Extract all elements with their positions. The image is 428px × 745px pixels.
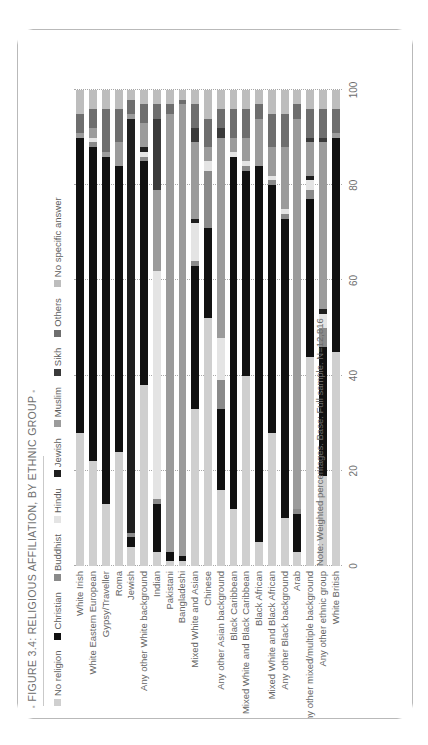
bar-segment[interactable] — [191, 223, 199, 261]
stacked-bar[interactable] — [89, 90, 97, 566]
bar-segment[interactable] — [217, 138, 225, 338]
stacked-bar[interactable] — [127, 90, 135, 566]
legend-item[interactable]: Buddhist — [52, 534, 63, 581]
bar-segment[interactable] — [153, 90, 161, 104]
bar-segment[interactable] — [76, 90, 84, 114]
bar-segment[interactable] — [191, 219, 199, 224]
bar-segment[interactable] — [179, 100, 187, 105]
bar-segment[interactable] — [306, 176, 314, 181]
legend-item[interactable]: Others — [52, 298, 63, 337]
bar-segment[interactable] — [115, 452, 123, 566]
stacked-bar[interactable] — [293, 90, 301, 566]
bar-segment[interactable] — [140, 147, 148, 152]
bar-segment[interactable] — [332, 352, 340, 566]
bar-segment[interactable] — [242, 90, 250, 109]
bar-segment[interactable] — [293, 514, 301, 552]
bar-segment[interactable] — [306, 199, 314, 356]
bar-segment[interactable] — [319, 90, 327, 109]
bar-segment[interactable] — [204, 161, 212, 171]
stacked-bar[interactable] — [102, 90, 110, 566]
bar-segment[interactable] — [89, 128, 97, 138]
bar-segment[interactable] — [204, 171, 212, 228]
bar-segment[interactable] — [306, 109, 314, 138]
bar-segment[interactable] — [140, 90, 148, 104]
bar-segment[interactable] — [281, 518, 289, 566]
bar-segment[interactable] — [204, 90, 212, 119]
bar-segment[interactable] — [179, 557, 187, 562]
bar-segment[interactable] — [217, 490, 225, 566]
bar-segment[interactable] — [242, 376, 250, 566]
bar-segment[interactable] — [268, 147, 276, 176]
bar-segment[interactable] — [319, 309, 327, 314]
bar-segment[interactable] — [127, 90, 135, 100]
bar-segment[interactable] — [191, 261, 199, 266]
bar-segment[interactable] — [281, 147, 289, 209]
bar-segment[interactable] — [153, 552, 161, 566]
bar-segment[interactable] — [306, 190, 314, 200]
stacked-bar[interactable] — [281, 90, 289, 566]
bar-segment[interactable] — [332, 133, 340, 138]
bar-segment[interactable] — [230, 109, 238, 138]
bar-segment[interactable] — [255, 119, 263, 167]
bar-segment[interactable] — [153, 119, 161, 190]
bar-segment[interactable] — [242, 138, 250, 162]
bar-segment[interactable] — [268, 180, 276, 185]
bar-segment[interactable] — [179, 90, 187, 100]
bar-segment[interactable] — [217, 109, 225, 128]
bar-segment[interactable] — [293, 90, 301, 104]
bar-segment[interactable] — [306, 142, 314, 175]
bar-segment[interactable] — [281, 219, 289, 519]
bar-segment[interactable] — [140, 161, 148, 385]
bar-segment[interactable] — [127, 119, 135, 533]
bar-segment[interactable] — [140, 152, 148, 157]
bar-segment[interactable] — [140, 123, 148, 147]
bar-segment[interactable] — [242, 171, 250, 376]
stacked-bar[interactable] — [255, 90, 263, 566]
bar-segment[interactable] — [166, 552, 174, 562]
bar-segment[interactable] — [217, 90, 225, 109]
bar-segment[interactable] — [140, 385, 148, 566]
bar-segment[interactable] — [306, 357, 314, 566]
bar-segment[interactable] — [115, 109, 123, 142]
bar-segment[interactable] — [255, 90, 263, 104]
bar-segment[interactable] — [268, 114, 276, 147]
bar-segment[interactable] — [230, 138, 238, 152]
bar-segment[interactable] — [268, 176, 276, 181]
bar-segment[interactable] — [140, 104, 148, 123]
bar-segment[interactable] — [191, 142, 199, 218]
bar-segment[interactable] — [89, 461, 97, 566]
bar-segment[interactable] — [102, 90, 110, 109]
stacked-bar[interactable] — [204, 90, 212, 566]
bar-segment[interactable] — [319, 138, 327, 143]
bar-segment[interactable] — [255, 166, 263, 542]
stacked-bar[interactable] — [268, 90, 276, 566]
bar-segment[interactable] — [191, 128, 199, 142]
bar-segment[interactable] — [115, 166, 123, 452]
bar-segment[interactable] — [153, 104, 161, 118]
legend-item[interactable]: Jewish — [52, 438, 63, 477]
bar-segment[interactable] — [76, 433, 84, 566]
bar-segment[interactable] — [204, 147, 212, 161]
bar-segment[interactable] — [76, 114, 84, 133]
bar-segment[interactable] — [242, 166, 250, 171]
bar-segment[interactable] — [281, 214, 289, 219]
bar-segment[interactable] — [230, 509, 238, 566]
bar-segment[interactable] — [217, 128, 225, 138]
bar-segment[interactable] — [166, 90, 174, 104]
bar-segment[interactable] — [306, 138, 314, 143]
bar-segment[interactable] — [115, 90, 123, 109]
stacked-bar[interactable] — [115, 90, 123, 566]
bar-segment[interactable] — [230, 90, 238, 109]
bar-segment[interactable] — [217, 380, 225, 409]
bar-segment[interactable] — [153, 499, 161, 504]
legend-item[interactable]: Christian — [52, 592, 63, 640]
bar-segment[interactable] — [268, 433, 276, 566]
bar-segment[interactable] — [255, 542, 263, 566]
bar-segment[interactable] — [293, 119, 301, 509]
bar-segment[interactable] — [127, 533, 135, 538]
stacked-bar[interactable] — [191, 90, 199, 566]
bar-segment[interactable] — [230, 157, 238, 509]
bar-segment[interactable] — [268, 90, 276, 114]
bar-segment[interactable] — [166, 104, 174, 114]
bar-segment[interactable] — [140, 157, 148, 162]
